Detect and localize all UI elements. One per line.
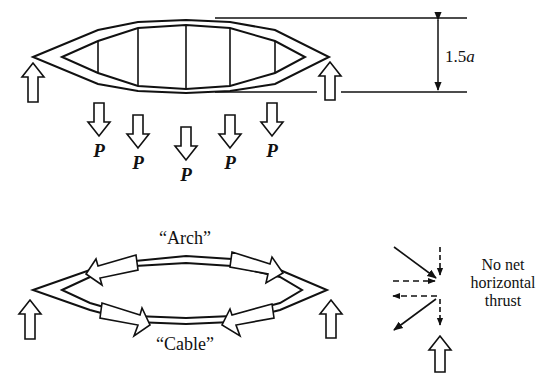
note-line-1: No net: [471, 256, 536, 274]
dimension-lines: [215, 18, 467, 92]
load-arrow-icon: [127, 115, 149, 148]
force-support-arrow: [429, 336, 451, 372]
dimension-label-var: a: [466, 47, 475, 66]
dimension-label: 1.5a: [445, 48, 475, 65]
load-arrows: [88, 103, 283, 160]
lenticular-truss: [33, 20, 329, 93]
support-arrow-right-icon: [319, 62, 341, 100]
note-line-2: horizontal: [471, 274, 536, 292]
truss-outer-chord: [33, 20, 329, 93]
no-net-thrust-note: No net horizontal thrust: [471, 256, 536, 310]
load-label-3: P: [180, 165, 192, 184]
cable-label: “Cable”: [156, 335, 214, 353]
truss-verticals: [98, 25, 275, 89]
load-arrow-icon: [88, 103, 110, 136]
tension-arrow-left-icon: [100, 303, 150, 336]
support-arrow-left-icon: [19, 300, 41, 339]
support-arrows-top: [22, 62, 341, 102]
load-arrow-icon: [175, 127, 197, 160]
force-resolution-diagram: [393, 247, 440, 330]
load-arrow-icon: [219, 115, 241, 148]
arch-force-vector: [394, 247, 436, 278]
arch-label: “Arch”: [159, 229, 211, 247]
compression-arrow-left-icon: [86, 255, 138, 285]
tension-arrow-right-icon: [222, 304, 274, 336]
load-label-4: P: [224, 153, 236, 172]
cable-force-arrows: [100, 303, 274, 336]
dimension-label-prefix: 1.5: [445, 47, 466, 66]
note-line-3: thrust: [471, 292, 536, 310]
cable-force-vector: [394, 299, 436, 330]
arch-cable-outer: [33, 256, 327, 324]
load-label-1: P: [93, 141, 105, 160]
arch-cable-diagram: [33, 256, 327, 324]
compression-arrow-right-icon: [230, 252, 283, 283]
load-label-5: P: [266, 141, 278, 160]
structural-diagram: 1.5a P P P P P “Arch” “Cable” No net hor…: [0, 0, 552, 391]
load-arrow-icon: [261, 103, 283, 136]
support-arrow-left-icon: [22, 63, 44, 102]
load-label-2: P: [132, 153, 144, 172]
support-arrow-icon: [429, 336, 451, 372]
support-arrow-right-icon: [320, 300, 342, 338]
